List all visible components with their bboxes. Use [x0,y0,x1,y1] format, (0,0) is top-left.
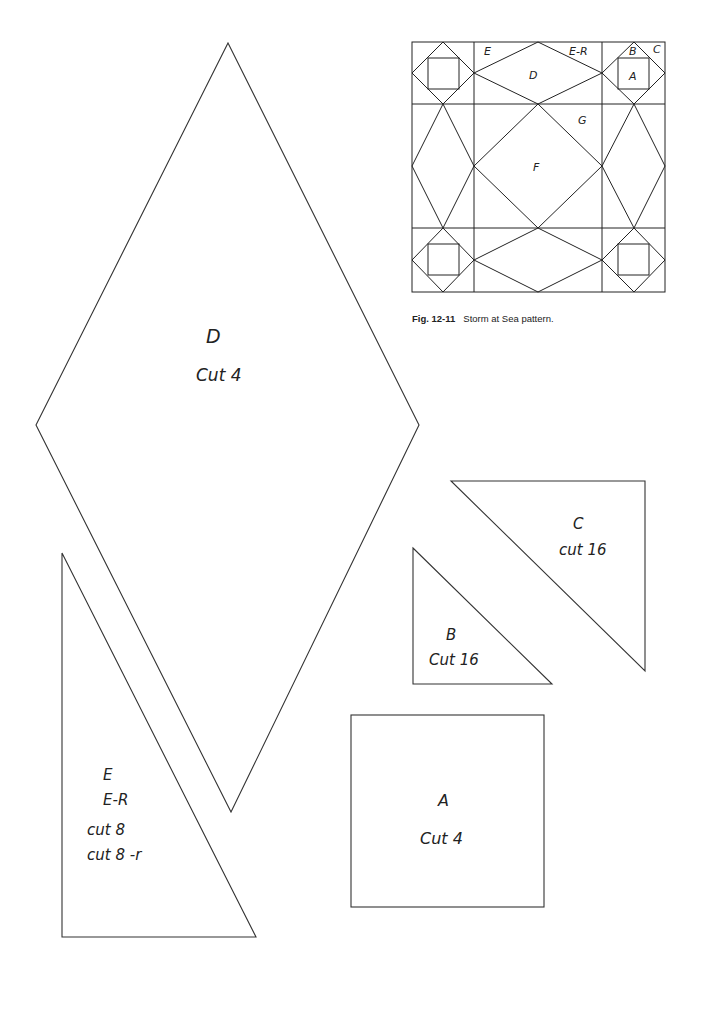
template-e-instruction: cut 8 [87,821,125,839]
template-d-letter: D [206,325,221,347]
pattern-page: E E-R D B C A G F Fig. 12-11Storm at Sea… [0,0,704,1017]
template-c: C cut 16 [451,481,645,671]
template-c-letter: C [573,515,584,533]
template-b-instruction: Cut 16 [429,651,479,669]
template-d: D Cut 4 [36,43,419,812]
template-a: A Cut 4 [351,715,544,907]
template-e-reverse-instruction: cut 8 -r [87,846,142,864]
template-b-letter: B [446,626,456,644]
template-c-instruction: cut 16 [559,541,607,559]
template-d-instruction: Cut 4 [196,365,242,385]
template-e-reverse-letter: E-R [103,791,128,809]
template-a-letter: A [437,791,449,810]
template-a-instruction: Cut 4 [420,829,463,848]
template-e-letter: E [103,766,113,784]
template-b: B Cut 16 [413,548,552,684]
template-e: E E-R cut 8 cut 8 -r [62,553,256,937]
template-pieces: D Cut 4 E E-R cut 8 cut 8 -r C cut 16 B … [0,0,704,1017]
